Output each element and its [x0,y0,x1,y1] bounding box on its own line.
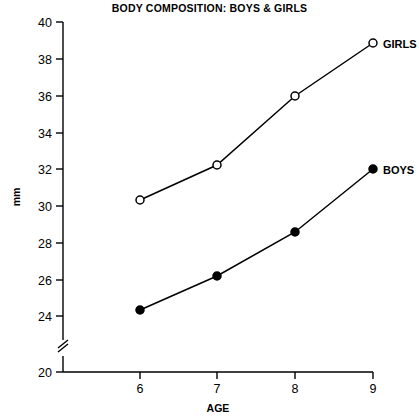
series-boys: BOYS [136,164,414,314]
y-tick-label-32: 32 [38,163,52,177]
x-tick-label-6: 6 [137,382,144,396]
series-boys-point-age6 [136,306,144,314]
y-axis-ticks [56,22,63,372]
y-tick-label-26: 26 [38,274,52,288]
y-tick-label-34: 34 [38,127,52,141]
x-tick-label-9: 9 [370,382,377,396]
series-girls-point-age8 [291,92,299,100]
y-tick-label-40: 40 [38,16,52,30]
y-tick-label-24: 24 [38,310,52,324]
series-boys-point-age8 [291,228,299,236]
series-girls-label: GIRLS [383,38,417,50]
series-girls-point-age7 [213,161,221,169]
series-boys-point-age7 [213,272,221,280]
y-axis-title: mm [10,188,22,207]
y-axis-tick-labels: 20 24 26 28 30 32 34 36 38 40 [38,16,52,380]
x-axis-title: AGE [207,402,230,414]
series-girls-point-age9 [369,39,377,47]
x-axis-tick-labels: 6 7 8 9 [137,382,377,396]
y-tick-label-36: 36 [38,90,52,104]
y-tick-label-30: 30 [38,200,52,214]
series-boys-point-age9 [369,165,377,173]
series-boys-line [140,169,373,310]
y-tick-label-20: 20 [38,366,52,380]
series-girls-point-age6 [136,196,144,204]
series-boys-label: BOYS [383,164,414,176]
x-axis-ticks [140,372,373,379]
y-axis-break-icon [58,340,68,352]
x-tick-label-7: 7 [214,382,221,396]
y-tick-label-38: 38 [38,53,52,67]
chart-container: BODY COMPOSITION: BOYS & GIRLS 20 24 2 [0,0,419,418]
y-tick-label-28: 28 [38,237,52,251]
x-tick-label-8: 8 [292,382,299,396]
chart-plot-area: 20 24 26 28 30 32 34 36 38 40 6 7 8 9 AG… [0,0,419,418]
series-girls: GIRLS [136,38,417,204]
series-girls-line [140,43,373,200]
